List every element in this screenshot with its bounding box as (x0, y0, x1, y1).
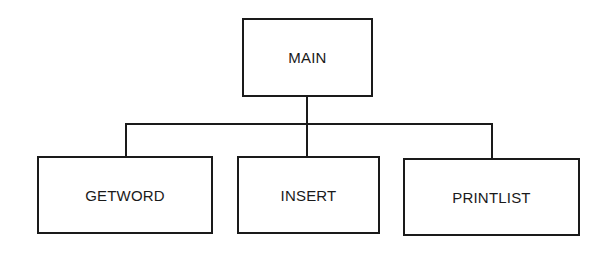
connector-bus-to-getword (125, 123, 127, 157)
node-getword-label: GETWORD (85, 187, 165, 204)
node-getword: GETWORD (37, 156, 213, 234)
node-printlist-label: PRINTLIST (452, 189, 530, 206)
structure-chart: MAIN GETWORD INSERT PRINTLIST (0, 0, 612, 254)
node-printlist: PRINTLIST (403, 158, 580, 236)
connector-bus (125, 123, 493, 125)
connector-bus-to-insert (306, 123, 308, 157)
node-insert-label: INSERT (281, 187, 337, 204)
node-insert: INSERT (237, 156, 380, 234)
node-main-label: MAIN (288, 49, 326, 66)
connector-bus-to-printlist (491, 123, 493, 159)
node-main: MAIN (242, 18, 373, 97)
connector-main-to-bus (306, 96, 308, 125)
